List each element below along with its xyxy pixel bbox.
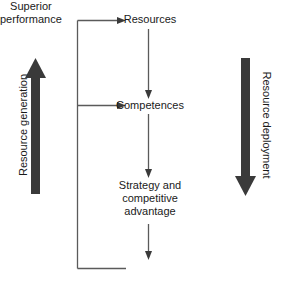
- connector-resources-to-competences: [145, 29, 152, 99]
- resource-flow-diagram: Resources Competences Strategy and compe…: [0, 0, 285, 300]
- resource-generation-label: Resource generation: [17, 55, 29, 195]
- diagram-canvas: [0, 0, 285, 300]
- node-superior-performance: Superior performance: [0, 0, 62, 26]
- node-competences: Competences: [100, 99, 200, 112]
- node-strategy: Strategy and competitive advantage: [105, 179, 195, 218]
- node-resources: Resources: [105, 13, 195, 26]
- resource-deployment-label: Resource deployment: [261, 55, 273, 195]
- connector-competences-to-strategy: [145, 114, 152, 178]
- connector-strategy-to-superior-performance: [145, 224, 152, 260]
- feedback-loop-connector: [78, 17, 127, 269]
- resource-deployment-arrow: [235, 58, 256, 196]
